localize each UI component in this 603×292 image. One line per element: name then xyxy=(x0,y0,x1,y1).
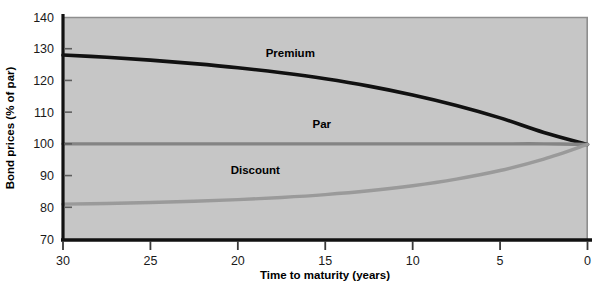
x-tick-label: 15 xyxy=(318,254,332,268)
y-tick-label: 70 xyxy=(40,233,54,247)
series-annotation-discount: Discount xyxy=(231,164,280,176)
y-tick-label: 140 xyxy=(33,11,54,25)
x-tick-label: 5 xyxy=(497,254,504,268)
y-tick-label: 100 xyxy=(33,137,54,151)
y-tick-label: 120 xyxy=(33,74,54,88)
series-annotation-premium: Premium xyxy=(266,47,315,59)
y-axis-title: Bond prices (% of par) xyxy=(4,66,16,189)
x-axis-ticks xyxy=(63,241,588,250)
x-axis-tick-labels: 302520151050 xyxy=(56,254,591,268)
series-annotation-par: Par xyxy=(312,118,331,130)
x-tick-label: 25 xyxy=(143,254,157,268)
y-axis-tick-labels: 140130120110100908070 xyxy=(33,11,54,247)
y-tick-label: 90 xyxy=(40,169,54,183)
y-tick-label: 130 xyxy=(33,42,54,56)
y-tick-label: 80 xyxy=(40,201,54,215)
x-tick-label: 10 xyxy=(406,254,420,268)
chart-figure: 140130120110100908070 302520151050 Premi… xyxy=(0,0,603,292)
series-line-par xyxy=(63,144,588,145)
bond-price-chart: 140130120110100908070 302520151050 Premi… xyxy=(0,0,603,292)
x-tick-label: 0 xyxy=(584,254,591,268)
y-tick-label: 110 xyxy=(34,106,54,120)
x-axis-title: Time to maturity (years) xyxy=(260,269,390,281)
x-tick-label: 20 xyxy=(231,254,245,268)
x-tick-label: 30 xyxy=(56,254,70,268)
